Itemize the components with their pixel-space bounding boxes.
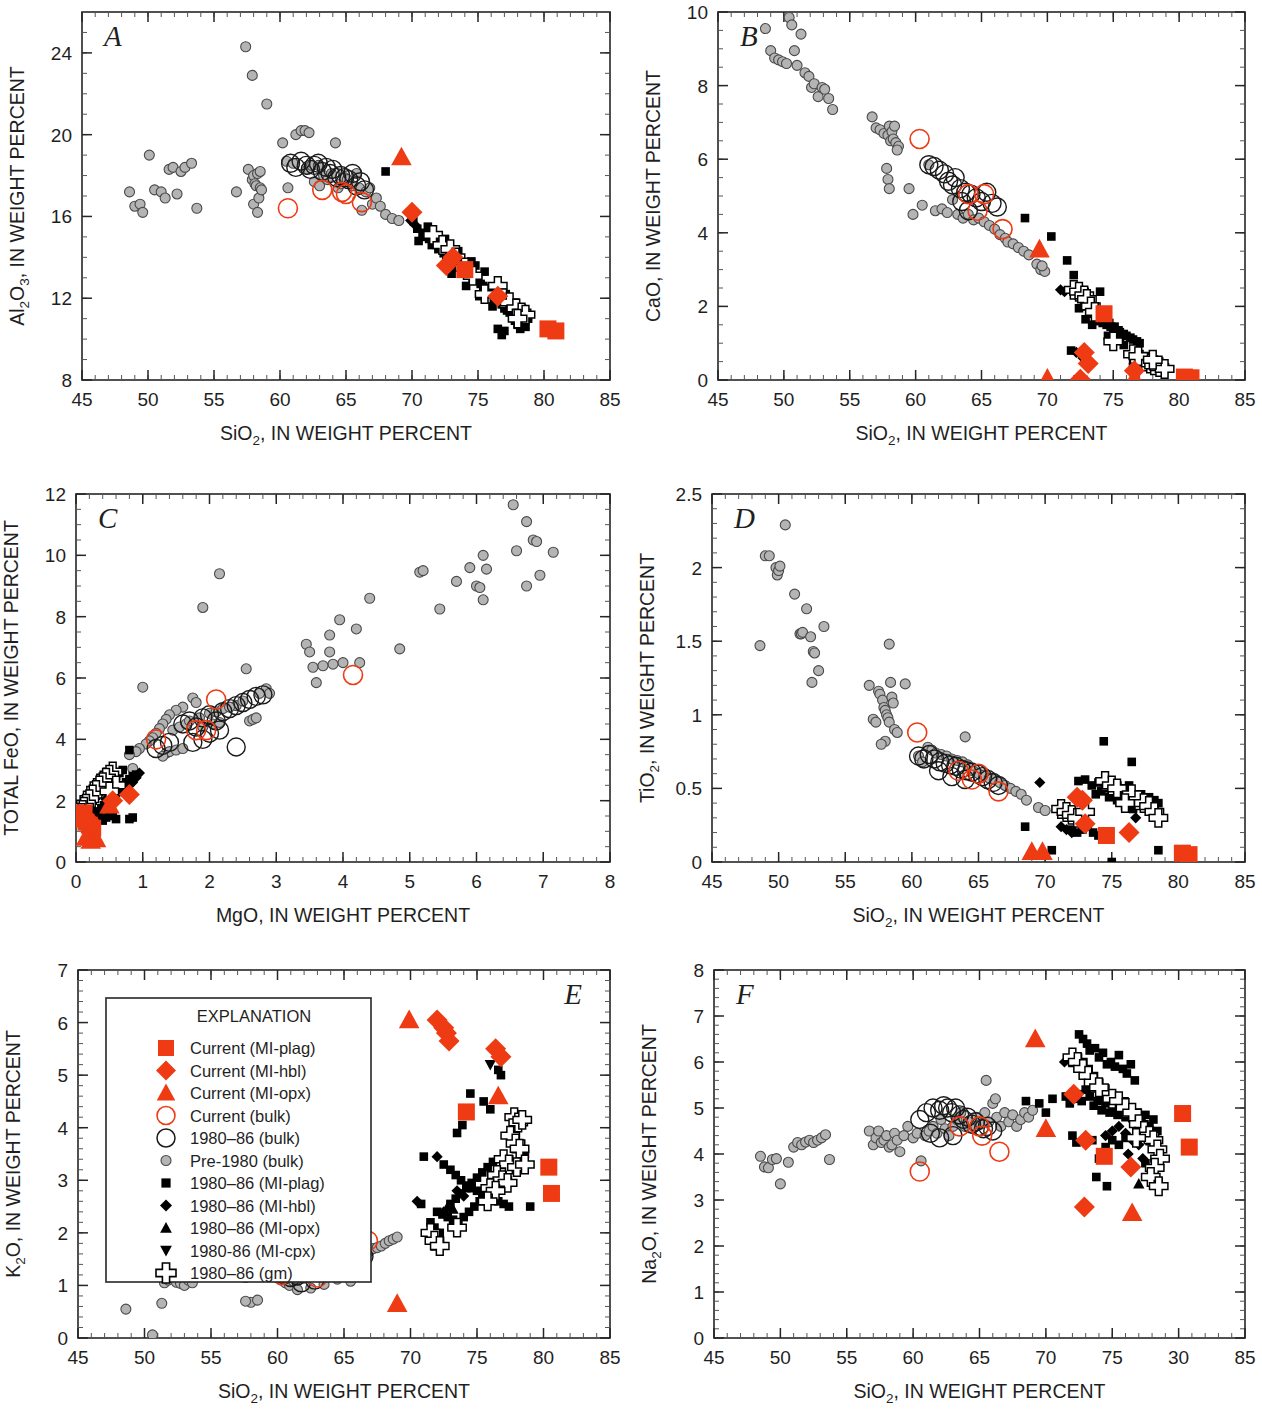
data-point [512, 546, 522, 556]
series [760, 13, 1049, 277]
y-tick-label: 24 [51, 43, 73, 64]
x-tick-label: 60 [901, 871, 922, 892]
x-tick-label: 5 [404, 871, 415, 892]
y-tick-label: 6 [697, 149, 708, 170]
data-point [253, 1295, 263, 1305]
data-point [257, 185, 267, 195]
data-point [304, 128, 314, 138]
data-point [1107, 858, 1116, 867]
y-tick-label: 10 [45, 545, 66, 566]
y-tick-label: 4 [57, 1118, 68, 1139]
data-point [1127, 758, 1136, 767]
x-tick-label: 3 [271, 871, 282, 892]
x-tick-label: 50 [770, 1347, 791, 1368]
data-point [900, 679, 910, 689]
data-point [262, 99, 272, 109]
data-point [1022, 1097, 1031, 1106]
data-point [821, 1130, 831, 1140]
chart-panel-b: 4550556065707580850246810BSiO2, IN WEIGH… [638, 0, 1262, 454]
y-tick-label: 0.5 [676, 778, 702, 799]
data-point [1096, 1148, 1113, 1165]
axis-title: SiO2, IN WEIGHT PERCENT [852, 904, 1104, 930]
y-tick-label: 4 [693, 1144, 704, 1165]
data-point [1149, 1115, 1158, 1124]
data-point [1103, 1182, 1112, 1191]
data-point [755, 641, 765, 651]
y-tick-label: 20 [51, 125, 72, 146]
data-point [1127, 1060, 1136, 1069]
data-point [1074, 1196, 1095, 1217]
harker-diagram-figure: 455055606570758085812162024ASiO2, IN WEI… [0, 0, 1262, 1417]
y-tick-label: 1 [693, 1282, 704, 1303]
data-point [792, 60, 802, 70]
data-point [1115, 1051, 1124, 1060]
data-point [435, 604, 445, 614]
y-tick-label: 8 [693, 960, 704, 981]
data-point [392, 1232, 402, 1242]
y-tick-label: 8 [697, 76, 708, 97]
data-point [1099, 737, 1108, 746]
plot-area-a: 455055606570758085812162024ASiO2, IN WEI… [2, 0, 630, 454]
axis-title: Na2O, IN WEIGHT PERCENT [638, 1024, 664, 1284]
data-point [916, 1156, 926, 1166]
data-point [908, 723, 927, 742]
data-point [311, 678, 321, 688]
data-point [241, 42, 251, 52]
data-point [1075, 1130, 1096, 1151]
data-point [157, 1298, 167, 1308]
data-point [125, 187, 135, 197]
x-tick-label: 45 [67, 1347, 88, 1368]
legend-item-label: Current (bulk) [190, 1107, 291, 1125]
legend-item-label: Current (MI-opx) [190, 1084, 311, 1102]
data-point [824, 1155, 834, 1165]
x-tick-label: 65 [333, 1347, 354, 1368]
x-tick-label: 55 [839, 389, 860, 410]
panel-letter: A [102, 20, 122, 52]
x-tick-label: 30 [1168, 1347, 1189, 1368]
legend-item-label: Pre-1980 (bulk) [190, 1152, 304, 1170]
data-point [158, 751, 168, 761]
x-tick-label: 75 [1101, 871, 1122, 892]
x-tick-label: 70 [1035, 1347, 1056, 1368]
x-tick-label: 70 [401, 389, 422, 410]
data-point [548, 547, 558, 557]
y-tick-label: 5 [693, 1098, 704, 1119]
data-point [1036, 1118, 1057, 1137]
data-point [456, 261, 473, 278]
data-point [231, 187, 241, 197]
data-point [1021, 214, 1030, 223]
data-point [387, 1293, 408, 1312]
y-tick-label: 6 [55, 668, 66, 689]
data-point [138, 207, 148, 217]
x-tick-label: 55 [203, 389, 224, 410]
data-point [497, 331, 506, 340]
data-point [1099, 1049, 1108, 1058]
axis-title: Al2O3, IN WEIGHT PERCENT [6, 66, 32, 326]
data-point [395, 644, 405, 654]
data-point [806, 632, 816, 642]
plot-area-c: 012345678024681012CMgO, IN WEIGHT PERCEN… [0, 474, 630, 936]
data-point [543, 1185, 560, 1202]
series [910, 746, 1008, 795]
data-point [192, 203, 202, 213]
data-point [864, 680, 874, 690]
data-point [497, 1071, 506, 1080]
y-tick-label: 0 [55, 852, 66, 873]
axis-title: TOTAL FeO, IN WEIGHT PERCENT [0, 520, 22, 836]
data-point [899, 1131, 909, 1141]
axis-title: TiO2, IN WEIGHT PERCENT [636, 553, 662, 803]
data-point [876, 739, 886, 749]
x-tick-label: 65 [968, 871, 989, 892]
data-point [508, 500, 518, 510]
data-point [251, 713, 261, 723]
y-tick-label: 2.5 [676, 484, 702, 505]
axis-title: SiO2, IN WEIGHT PERCENT [855, 422, 1107, 448]
data-point [458, 1121, 467, 1130]
y-tick-label: 7 [693, 1006, 704, 1027]
data-point [1085, 1092, 1094, 1101]
data-point [247, 70, 257, 80]
chart-panel-f: 455055606570753085012345678FSiO2, IN WEI… [634, 950, 1262, 1412]
data-point [330, 138, 340, 148]
data-point [187, 158, 197, 168]
data-point [125, 746, 134, 755]
